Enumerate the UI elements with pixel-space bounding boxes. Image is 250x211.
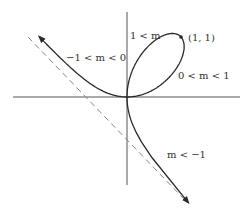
label-point-1-1: (1, 1) xyxy=(188,32,215,43)
branch-neg1-to-0 xyxy=(39,36,127,97)
label-one-lt-m: 1 < m xyxy=(130,30,161,41)
point-1-1-marker xyxy=(179,35,183,39)
folium-diagram: 1 < m (1, 1) 0 < m < 1 −1 < m < 0 m < −1 xyxy=(0,0,250,211)
label-m-lt-neg1: m < −1 xyxy=(167,149,206,160)
label-neg1-lt-m-lt-zero: −1 < m < 0 xyxy=(66,52,126,63)
label-zero-lt-m-lt-one: 0 < m < 1 xyxy=(178,70,230,81)
folium-loop xyxy=(127,34,184,98)
